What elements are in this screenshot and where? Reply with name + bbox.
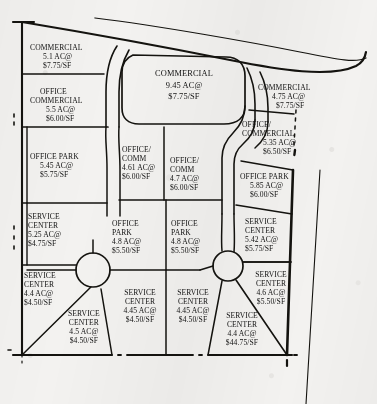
parcel-label-p4: SERVICE CENTER 5.25 AC@ $4.75/SF (28, 212, 61, 248)
road-collector-right-a (247, 68, 255, 120)
parcel-use-2: COMMERCIAL (242, 129, 296, 138)
parcel-label-p12: SERVICE CENTER 4.45 AC@ $4.50/SF (116, 288, 164, 324)
road-far-right (306, 170, 320, 404)
parcel-use: SERVICE (68, 309, 100, 318)
parcel-acres: 4.7 AC@ (170, 174, 199, 183)
parcel-use-2: CENTER (116, 297, 164, 306)
parcel-label-p6: SERVICE CENTER 4.5 AC@ $4.50/SF (68, 309, 100, 345)
parcel-acres: 4.75 AC@ (258, 92, 310, 101)
parcel-acres: 4.4 AC@ (24, 289, 56, 298)
parcel-price: $5.75/SF (245, 244, 278, 253)
road-gap-2 (243, 66, 262, 71)
parcel-use: COMMERCIAL (143, 68, 225, 80)
parcel-use-2: CENTER (248, 279, 294, 288)
parcel-price: $4.50/SF (24, 298, 56, 307)
parcel-use: OFFICE PARK (240, 172, 289, 181)
plat-map: COMMERCIAL 5.1 AC@ $7.75/SF OFFICE COMME… (0, 0, 377, 404)
parcel-acres: 4.4 AC@ (216, 329, 268, 338)
parcel-acres: 9.45 AC@ (143, 80, 225, 92)
divider-right-2 (241, 161, 293, 170)
parcel-label-p10: OFFICE PARK 4.8 AC@ $5.50/SF (112, 219, 141, 255)
parcel-price: $44.75/SF (216, 338, 268, 347)
parcel-price: $5.50/SF (171, 246, 200, 255)
parcel-use: SERVICE (169, 288, 217, 297)
parcel-use-2: PARK (112, 228, 141, 237)
parcel-acres: 4.6 AC@ (248, 288, 294, 297)
parcel-use: OFFICE (30, 87, 82, 96)
parcel-price: $5.50/SF (112, 246, 141, 255)
parcel-label-p15: OFFICE/ COMMERCIAL 5.35 AC@ $6.50/SF (242, 120, 296, 156)
parcel-use-2: CENTER (216, 320, 268, 329)
parcel-acres: 4.8 AC@ (112, 237, 141, 246)
parcel-use: COMMERCIAL (258, 83, 310, 92)
road-collector-left-a (106, 46, 117, 127)
parcel-acres: 5.35 AC@ (242, 138, 296, 147)
parcel-label-p9: OFFICE/ COMM 4.7 AC@ $6.00/SF (170, 156, 199, 192)
parcel-use: OFFICE PARK (30, 152, 79, 161)
parcel-use: SERVICE (248, 270, 294, 279)
parcel-use: SERVICE (28, 212, 61, 221)
parcel-acres: 5.1 AC@ (30, 52, 82, 61)
parcel-acres: 4.5 AC@ (68, 327, 100, 336)
parcel-acres: 5.85 AC@ (240, 181, 289, 190)
parcel-label-p8: OFFICE/ COMM 4.61 AC@ $6.00/SF (122, 145, 155, 181)
parcel-use-2: CENTER (28, 221, 61, 230)
parcel-label-p19: SERVICE CENTER 4.4 AC@ $44.75/SF (216, 311, 268, 347)
parcel-use: OFFICE/ (122, 145, 155, 154)
parcel-label-p11: OFFICE PARK 4.8 AC@ $5.50/SF (171, 219, 200, 255)
parcel-use: OFFICE (171, 219, 200, 228)
parcel-use: OFFICE/ (242, 120, 296, 129)
parcel-use-2: COMMERCIAL (30, 96, 82, 105)
parcel-use: SERVICE (216, 311, 268, 320)
parcel-acres: 5.25 AC@ (28, 230, 61, 239)
parcel-label-p7: COMMERCIAL 9.45 AC@ $7.75/SF (143, 68, 225, 103)
road-top-outer (95, 18, 366, 60)
parcel-use: OFFICE/ (170, 156, 199, 165)
spoke-right-left (200, 266, 213, 270)
parcel-price: $4.50/SF (68, 336, 100, 345)
parcel-label-p3: OFFICE PARK 5.45 AC@ $5.75/SF (30, 152, 79, 179)
parcel-label-p14: COMMERCIAL 4.75 AC@ $7.75/SF (258, 83, 310, 110)
parcel-use-2: CENTER (24, 280, 56, 289)
parcel-use: OFFICE (112, 219, 141, 228)
parcel-price: $4.50/SF (169, 315, 217, 324)
parcel-use-2: COMM (170, 165, 199, 174)
parcel-price: $6.00/SF (30, 114, 82, 123)
parcel-acres: 4.61 AC@ (122, 163, 155, 172)
parcel-use-2: CENTER (245, 226, 278, 235)
cul-de-sac-right (213, 251, 243, 281)
parcel-price: $7.75/SF (258, 101, 310, 110)
parcel-price: $6.00/SF (240, 190, 289, 199)
divider-right-3 (236, 205, 292, 214)
parcel-label-p13: SERVICE CENTER 4.45 AC@ $4.50/SF (169, 288, 217, 324)
parcel-price: $4.50/SF (116, 315, 164, 324)
parcel-acres: 4.45 AC@ (169, 306, 217, 315)
parcel-price: $7.75/SF (143, 91, 225, 103)
parcel-price: $7.75/SF (30, 61, 82, 70)
parcel-use: SERVICE (24, 271, 56, 280)
parcel-price: $5.50/SF (248, 297, 294, 306)
parcel-label-p1: COMMERCIAL 5.1 AC@ $7.75/SF (30, 43, 82, 70)
parcel-price: $6.00/SF (170, 183, 199, 192)
parcel-use-2: CENTER (68, 318, 100, 327)
parcel-acres: 4.45 AC@ (116, 306, 164, 315)
parcel-use-2: COMM (122, 154, 155, 163)
parcel-price: $5.75/SF (30, 170, 79, 179)
lotline-diagonal-left2 (101, 289, 112, 355)
parcel-use-2: CENTER (169, 297, 217, 306)
cul-de-sac-left (76, 253, 110, 287)
parcel-price: $6.50/SF (242, 147, 296, 156)
parcel-label-p5: SERVICE CENTER 4.4 AC@ $4.50/SF (24, 271, 56, 307)
road-collector-left-d (119, 127, 120, 216)
parcel-acres: 5.45 AC@ (30, 161, 79, 170)
parcel-label-p18: SERVICE CENTER 4.6 AC@ $5.50/SF (248, 270, 294, 306)
parcel-acres: 4.8 AC@ (171, 237, 200, 246)
parcel-acres: 5.5 AC@ (30, 105, 82, 114)
parcel-price: $6.00/SF (122, 172, 155, 181)
parcel-use: SERVICE (245, 217, 278, 226)
parcel-label-p2: OFFICE COMMERCIAL 5.5 AC@ $6.00/SF (30, 87, 82, 123)
parcel-use: COMMERCIAL (30, 43, 82, 52)
parcel-label-p17: SERVICE CENTER 5.42 AC@ $5.75/SF (245, 217, 278, 253)
parcel-price: $4.75/SF (28, 239, 61, 248)
parcel-label-p16: OFFICE PARK 5.85 AC@ $6.00/SF (240, 172, 289, 199)
